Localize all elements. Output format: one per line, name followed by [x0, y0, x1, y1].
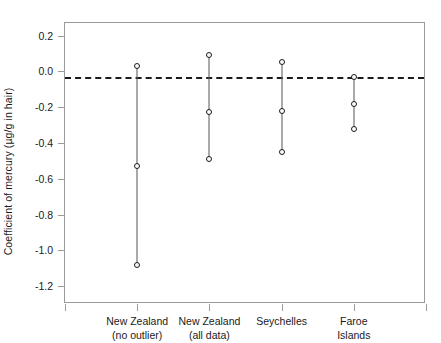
data-point-upper — [279, 59, 285, 65]
y-tick-label: -0.6 — [13, 173, 53, 185]
data-point-estimate — [134, 163, 140, 169]
data-point-lower — [134, 262, 140, 268]
x-tick-mark — [426, 304, 427, 311]
data-point-upper — [206, 52, 212, 58]
y-tick-mark — [58, 143, 65, 144]
y-tick-mark — [58, 36, 65, 37]
x-tick-mark — [354, 304, 355, 311]
x-tick-mark — [209, 304, 210, 311]
y-tick-mark — [58, 107, 65, 108]
y-tick-label: -0.2 — [13, 101, 53, 113]
y-tick-label: -0.8 — [13, 209, 53, 221]
x-tick-mark — [282, 304, 283, 311]
mercury-coefficient-chart: Coefficient of mercury (µg/g in hair) Ne… — [0, 0, 441, 343]
x-tick-mark — [137, 304, 138, 311]
data-point-upper — [351, 74, 357, 80]
y-tick-label: -1.0 — [13, 244, 53, 256]
x-tick-label-line1: Faroe — [294, 315, 414, 329]
data-point-upper — [134, 63, 140, 69]
x-tick-label-line2: Islands — [294, 329, 414, 343]
y-tick-label: -0.4 — [13, 137, 53, 149]
data-point-estimate — [351, 101, 357, 107]
y-tick-label: 0.2 — [13, 30, 53, 42]
y-tick-mark — [58, 286, 65, 287]
y-tick-label: -1.2 — [13, 280, 53, 292]
data-point-lower — [279, 149, 285, 155]
data-point-estimate — [206, 109, 212, 115]
y-tick-mark — [58, 215, 65, 216]
x-tick-mark — [65, 304, 66, 311]
x-tick-label: FaroeIslands — [294, 315, 414, 342]
x-tick-label-line2: (all data) — [149, 329, 269, 343]
y-tick-mark — [58, 71, 65, 72]
y-tick-mark — [58, 179, 65, 180]
reference-line — [65, 77, 424, 79]
data-point-estimate — [279, 108, 285, 114]
y-tick-label: 0.0 — [13, 65, 53, 77]
plot-area: New Zealand(no outlier)New Zealand(all d… — [64, 22, 425, 303]
y-tick-mark — [58, 250, 65, 251]
data-point-lower — [206, 156, 212, 162]
data-point-lower — [351, 126, 357, 132]
series-stem — [209, 55, 210, 159]
